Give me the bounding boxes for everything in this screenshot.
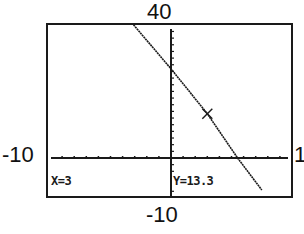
xmin-label: -10 <box>2 144 34 166</box>
trace-x-readout: X=3 <box>51 175 71 187</box>
graph-canvas <box>48 25 291 196</box>
function-plot <box>134 25 262 190</box>
trace-cursor-icon <box>202 109 212 119</box>
graph-screen: X=3 Y=13.3 <box>46 23 293 198</box>
ymin-label: -10 <box>146 204 178 226</box>
trace-y-readout: Y=13.3 <box>172 175 213 187</box>
axes <box>51 29 288 196</box>
xmax-label: 1 <box>294 144 304 166</box>
ymax-label: 40 <box>147 1 171 23</box>
